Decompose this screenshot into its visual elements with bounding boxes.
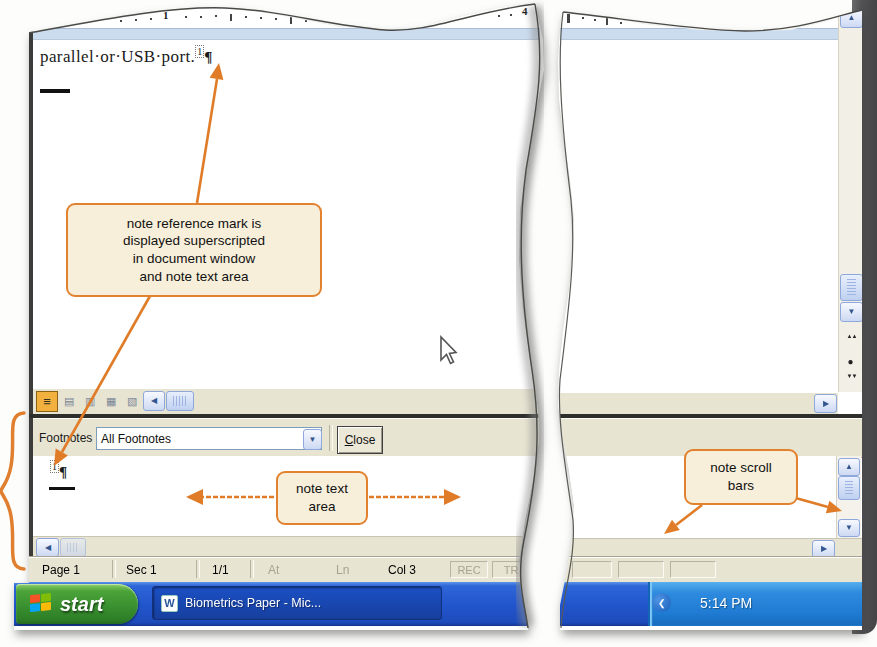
browse-previous-button[interactable]: ▲▲ [841,334,860,352]
status-empty-cell [618,561,664,578]
tray-collapse-button[interactable]: ❮ [652,593,671,612]
scroll-up-icon: ▲ [848,14,856,22]
note-hscroll-right-button[interactable]: ▶ [812,540,835,558]
note-vscroll-up-button[interactable]: ▲ [838,458,860,476]
doc-hscroll-strip-right [560,392,838,414]
callout-note-text-area: note text area [276,471,368,525]
browse-select-icon: ● [847,356,853,367]
doc-vscroll-up-button[interactable]: ▲ [840,8,863,28]
browse-next-icon: ▼▼ [847,374,855,379]
browse-next-button[interactable]: ▼▼ [841,374,860,392]
scroll-down-icon: ▼ [845,524,853,532]
callout-note-scroll-bars: note scroll bars [684,449,798,505]
scroll-down-icon: ▼ [848,308,856,316]
browse-select-button[interactable]: ● [841,356,860,372]
note-vscroll-thumb[interactable] [838,476,860,500]
scroll-up-icon: ▲ [845,463,853,471]
status-empty-cell [670,561,716,578]
doc-vscroll-thumb[interactable] [840,274,863,301]
scroll-right-icon: ▶ [821,545,827,553]
system-tray [648,582,864,626]
doc-hscroll-right-button[interactable]: ▶ [814,394,837,413]
scroll-right-icon: ▶ [823,400,829,408]
doc-vscroll-down-button[interactable]: ▼ [840,302,863,322]
status-empty-cell [572,561,612,578]
tray-chevron-icon: ❮ [658,598,666,608]
callout-ref-mark: note reference mark is displayed supersc… [66,203,322,297]
note-vscroll-down-button[interactable]: ▼ [838,519,860,537]
tray-clock[interactable]: 5:14 PM [700,595,752,611]
browse-prev-icon: ▲▲ [847,334,855,339]
right-screenshot-piece: ▲ ▼ ▲▲ ● ▼▼ ▶ ▲ ▼ ▶ ❮ 5:14 PM [0,0,877,647]
ruler-margin-strip-right [560,28,838,40]
ruler-tick [567,14,570,23]
